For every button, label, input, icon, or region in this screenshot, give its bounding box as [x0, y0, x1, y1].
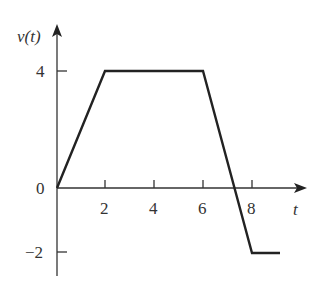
y-axis-label: v(t): [17, 27, 41, 46]
y-tick-label-0: 0: [36, 179, 45, 198]
chart: v(t) 4 0 −2 2 4 6 8 t: [0, 0, 327, 281]
x-tick-label-4: 4: [149, 199, 158, 218]
x-axis-label: t: [293, 200, 299, 219]
x-tick-label-2: 2: [100, 199, 109, 218]
data-line: [57, 71, 280, 253]
y-tick-label-neg2: −2: [25, 243, 43, 262]
x-tick-label-8: 8: [247, 199, 256, 218]
x-tick-label-6: 6: [198, 199, 207, 218]
y-tick-label-4: 4: [36, 62, 45, 81]
